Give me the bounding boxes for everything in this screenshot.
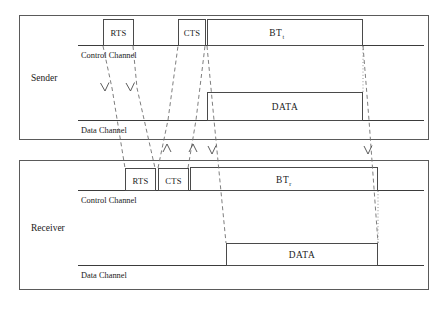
sender-data-channel-label: Data Channel — [81, 126, 127, 135]
arrowhead-up-cts-start — [163, 144, 171, 152]
prop-line-data-start — [207, 46, 226, 243]
sender-control-channel-label: Control Channel — [81, 51, 137, 60]
receiver-node-label: Receiver — [31, 223, 66, 233]
timing-diagram: Sender RTS CTS BTt DATA Control Channel … — [0, 0, 446, 309]
arrowhead-down-rts-start — [101, 83, 110, 92]
propagation-lines — [101, 46, 379, 243]
receiver-data-channel-label: Data Channel — [81, 271, 127, 280]
sender-bt-box[interactable] — [208, 20, 363, 46]
receiver-data-label: DATA — [289, 250, 316, 260]
arrowhead-down-data-start — [208, 146, 216, 155]
prop-line-rts-start — [103, 46, 125, 168]
arrowhead-up-cts-end — [189, 144, 197, 152]
receiver-rts-label: RTS — [132, 176, 148, 186]
receiver-cts-label: CTS — [165, 176, 182, 186]
diagram-canvas: Sender RTS CTS BTt DATA Control Channel … — [0, 0, 446, 309]
sender-node-label: Sender — [31, 73, 58, 83]
receiver-panel: Receiver RTS CTS BTr DATA Control Channe… — [20, 161, 429, 290]
receiver-control-channel-label: Control Channel — [81, 196, 137, 205]
sender-data-label: DATA — [272, 102, 299, 112]
sender-cts-label: CTS — [184, 28, 201, 38]
prop-line-cts-start — [158, 46, 178, 168]
sender-rts-label: RTS — [110, 28, 126, 38]
arrowhead-down-rts-end — [126, 83, 135, 92]
prop-line-rts-end — [133, 46, 155, 168]
prop-line-data-end — [363, 46, 378, 243]
sender-panel: Sender RTS CTS BTt DATA Control Channel … — [20, 16, 429, 140]
